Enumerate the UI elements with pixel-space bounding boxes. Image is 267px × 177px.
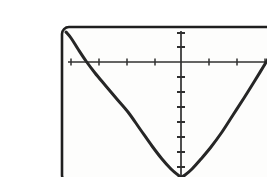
graph-screenshot-root [0,0,267,177]
plot-frame-border [62,27,267,177]
graph-canvas [40,16,267,177]
parabola-figure [40,16,267,177]
